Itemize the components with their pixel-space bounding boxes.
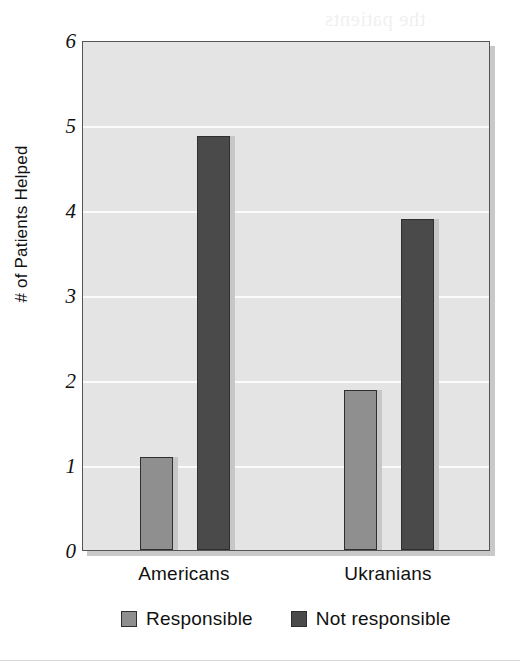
chart-legend: Responsible Not responsible bbox=[82, 608, 490, 630]
legend-swatch-not-responsible bbox=[291, 611, 307, 627]
legend-label-not-responsible: Not responsible bbox=[316, 608, 451, 630]
bar-ukranians-responsible bbox=[344, 390, 377, 550]
bar-ukranians-not-responsible bbox=[401, 219, 434, 551]
plot-area bbox=[82, 41, 490, 551]
y-axis-tick-0: 0 bbox=[46, 539, 76, 564]
y-axis-title: # of Patients Helped bbox=[12, 114, 32, 334]
x-axis-tick-label-ukranians: Ukranians bbox=[286, 563, 490, 585]
legend-label-responsible: Responsible bbox=[146, 608, 253, 630]
bar-americans-not-responsible bbox=[197, 136, 230, 550]
y-axis-tick-labels: 0123456 bbox=[40, 41, 76, 551]
legend-item-responsible: Responsible bbox=[121, 608, 253, 630]
y-axis-tick-4: 4 bbox=[46, 199, 76, 224]
x-axis-tick-label-americans: Americans bbox=[82, 563, 286, 585]
legend-swatch-responsible bbox=[121, 611, 137, 627]
bar-americans-responsible bbox=[140, 457, 173, 551]
gridline-y-4 bbox=[83, 211, 489, 213]
y-axis-tick-5: 5 bbox=[46, 114, 76, 139]
gridline-y-5 bbox=[83, 126, 489, 128]
legend-item-not-responsible: Not responsible bbox=[291, 608, 451, 630]
page-bottom-rule bbox=[0, 660, 520, 661]
y-axis-tick-2: 2 bbox=[46, 369, 76, 394]
scan-bleed-top-artifact bbox=[30, 0, 230, 14]
y-axis-tick-3: 3 bbox=[46, 284, 76, 309]
y-axis-tick-6: 6 bbox=[46, 29, 76, 54]
chart-figure: the patients and some when questions the… bbox=[0, 0, 520, 668]
y-axis-tick-1: 1 bbox=[46, 454, 76, 479]
